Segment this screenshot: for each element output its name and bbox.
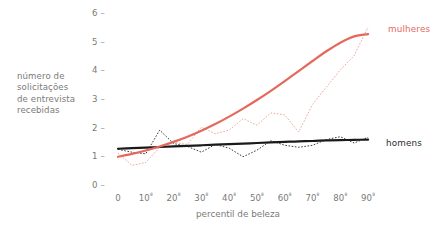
x-tick-50: 50º bbox=[244, 191, 270, 203]
x-tick-70-ordinal: º bbox=[317, 191, 320, 198]
x-tick-50-value: 50 bbox=[250, 193, 261, 203]
y-tick-3-dash: – bbox=[101, 94, 105, 104]
x-tick-40-ordinal: º bbox=[233, 191, 236, 198]
y-tick-2: 2– bbox=[89, 123, 105, 133]
x-tick-80: 80º bbox=[327, 191, 353, 203]
x-tick-0: 0 bbox=[105, 191, 131, 203]
y-tick-6: 6– bbox=[89, 8, 105, 18]
x-tick-10: 10º bbox=[133, 191, 159, 203]
x-tick-0-value: 0 bbox=[115, 193, 121, 203]
x-tick-20-value: 20 bbox=[167, 193, 178, 203]
y-tick-2-value: 2 bbox=[92, 123, 98, 133]
series-label-homens: homens bbox=[386, 138, 422, 148]
x-tick-80-value: 80 bbox=[333, 193, 344, 203]
y-tick-5-value: 5 bbox=[92, 37, 98, 47]
x-tick-50-ordinal: º bbox=[261, 191, 264, 198]
y-tick-0-value: 0 bbox=[92, 180, 98, 190]
x-tick-30: 30º bbox=[188, 191, 214, 203]
x-tick-60: 60º bbox=[272, 191, 298, 203]
x-tick-30-ordinal: º bbox=[205, 191, 208, 198]
y-tick-4-value: 4 bbox=[92, 65, 98, 75]
y-tick-1: 1– bbox=[89, 151, 105, 161]
x-tick-60-value: 60 bbox=[278, 193, 289, 203]
series-label-mulheres: mulheres bbox=[388, 24, 430, 34]
chart-figure: número de solicitações de entrevista rec… bbox=[0, 0, 448, 234]
x-tick-40-value: 40 bbox=[222, 193, 233, 203]
x-tick-30-value: 30 bbox=[194, 193, 205, 203]
x-tick-60-ordinal: º bbox=[289, 191, 292, 198]
y-tick-6-dash: – bbox=[101, 8, 105, 18]
y-tick-4-dash: – bbox=[101, 65, 105, 75]
women-trend-line bbox=[118, 34, 368, 157]
y-tick-4: 4– bbox=[89, 65, 105, 75]
y-axis-title-line-2: solicitações bbox=[17, 82, 103, 93]
series-women-trend bbox=[118, 34, 368, 157]
y-tick-3: 3– bbox=[89, 94, 105, 104]
y-tick-1-dash: – bbox=[101, 151, 105, 161]
y-tick-1-value: 1 bbox=[92, 151, 98, 161]
y-tick-5-dash: – bbox=[101, 37, 105, 47]
x-tick-90-ordinal: º bbox=[372, 191, 375, 198]
y-tick-3-value: 3 bbox=[92, 94, 98, 104]
x-tick-70: 70º bbox=[300, 191, 326, 203]
x-tick-20: 20º bbox=[161, 191, 187, 203]
x-tick-10-value: 10 bbox=[139, 193, 150, 203]
y-tick-0-dash: – bbox=[101, 180, 105, 190]
x-axis-title: percentil de beleza bbox=[148, 209, 328, 219]
x-tick-20-ordinal: º bbox=[178, 191, 181, 198]
x-tick-90-value: 90 bbox=[361, 193, 372, 203]
y-tick-2-dash: – bbox=[101, 123, 105, 133]
x-tick-80-ordinal: º bbox=[344, 191, 347, 198]
y-tick-6-value: 6 bbox=[92, 8, 98, 18]
x-tick-10-ordinal: º bbox=[150, 191, 153, 198]
y-axis-title-line-4: recebidas bbox=[17, 105, 103, 116]
y-tick-5: 5– bbox=[89, 37, 105, 47]
x-tick-90: 90º bbox=[355, 191, 381, 203]
x-tick-40: 40º bbox=[216, 191, 242, 203]
x-tick-70-value: 70 bbox=[305, 193, 316, 203]
y-tick-0: 0– bbox=[89, 180, 105, 190]
